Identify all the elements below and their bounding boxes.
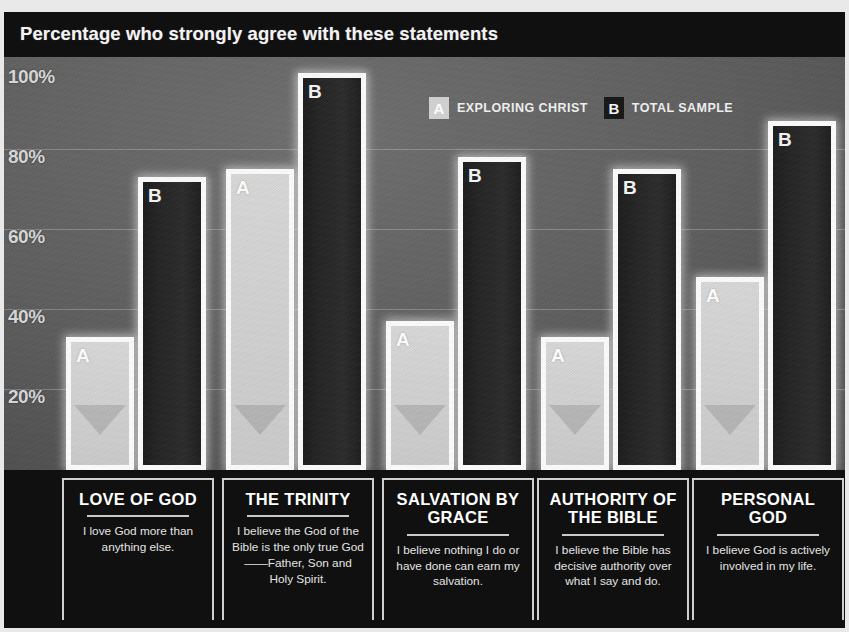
chart-legend: A EXPLORING CHRIST B TOTAL SAMPLE <box>429 97 733 119</box>
legend-swatch-b-icon: B <box>604 97 624 119</box>
caption-panel: AUTHORITY OF THE BIBLEI believe the Bibl… <box>537 478 689 620</box>
caption-heading: PERSONAL GOD <box>702 490 834 527</box>
bar-group: AB <box>226 57 371 470</box>
bar-label-a: A <box>706 286 720 305</box>
poster-frame: Percentage who strongly agree with these… <box>4 12 845 628</box>
caption-panel: SALVATION BY GRACEI believe nothing I do… <box>382 478 534 620</box>
caption-divider <box>717 534 820 536</box>
page-title: Percentage who strongly agree with these… <box>20 23 498 45</box>
caption-statement: I believe the Bible has decisive authori… <box>547 543 679 590</box>
bar-label-b: B <box>308 82 322 101</box>
bar-group: AB <box>66 57 211 470</box>
bar-b: B <box>613 169 681 470</box>
caption-divider <box>407 534 510 536</box>
plot-area: 20%40%60%80%100% A EXPLORING CHRIST B TO… <box>4 57 845 470</box>
chevron-down-icon <box>549 405 601 435</box>
chevron-down-icon <box>74 405 126 435</box>
bar-label-b: B <box>468 166 482 185</box>
bar-label-a: A <box>551 346 565 365</box>
bar-label-a: A <box>76 346 90 365</box>
caption-panel: THE TRINITYI believe the God of the Bibl… <box>222 478 374 620</box>
legend-item-a: A EXPLORING CHRIST <box>429 97 588 119</box>
chart-poster: Percentage who strongly agree with these… <box>0 0 849 632</box>
chevron-down-icon <box>234 405 286 435</box>
bar-a: A <box>66 337 134 470</box>
legend-label-b: TOTAL SAMPLE <box>632 101 733 115</box>
bar-b: B <box>298 73 366 470</box>
caption-statement: I believe nothing I do or have done can … <box>392 543 524 590</box>
bar-b: B <box>768 121 836 470</box>
caption-heading: THE TRINITY <box>232 490 364 508</box>
caption-heading: LOVE OF GOD <box>72 490 204 508</box>
legend-swatch-a-icon: A <box>429 97 449 119</box>
category-captions: LOVE OF GODI love God more than anything… <box>4 470 845 628</box>
caption-statement: I believe God is actively involved in my… <box>702 543 834 574</box>
chevron-down-icon <box>704 405 756 435</box>
caption-heading: AUTHORITY OF THE BIBLE <box>547 490 679 527</box>
bar-label-b: B <box>148 186 162 205</box>
caption-divider <box>562 534 665 536</box>
title-bar: Percentage who strongly agree with these… <box>4 12 845 56</box>
caption-divider <box>247 515 350 517</box>
caption-heading: SALVATION BY GRACE <box>392 490 524 527</box>
bar-label-b: B <box>623 178 637 197</box>
caption-divider <box>87 515 190 517</box>
bar-label-b: B <box>778 130 792 149</box>
bar-a: A <box>541 337 609 470</box>
bar-label-a: A <box>236 178 250 197</box>
caption-panel: PERSONAL GODI believe God is actively in… <box>692 478 844 620</box>
bar-b: B <box>138 177 206 470</box>
legend-item-b: B TOTAL SAMPLE <box>604 97 733 119</box>
chevron-down-icon <box>394 405 446 435</box>
bar-a: A <box>696 277 764 470</box>
legend-label-a: EXPLORING CHRIST <box>457 101 588 115</box>
caption-panel: LOVE OF GODI love God more than anything… <box>62 478 214 620</box>
bar-label-a: A <box>396 330 410 349</box>
bar-a: A <box>386 321 454 470</box>
bar-b: B <box>458 157 526 470</box>
caption-statement: I love God more than anything else. <box>72 524 204 555</box>
caption-statement: I believe the God of the Bible is the on… <box>232 524 364 587</box>
bar-a: A <box>226 169 294 470</box>
